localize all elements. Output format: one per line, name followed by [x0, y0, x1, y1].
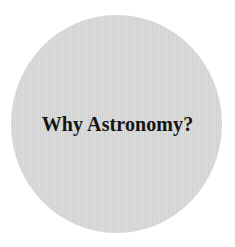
- title-text: Why Astronomy?: [0, 111, 235, 137]
